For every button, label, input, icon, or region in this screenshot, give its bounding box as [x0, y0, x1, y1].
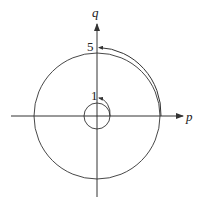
p-axis-label: p [185, 109, 193, 124]
q-axis-label: q [92, 5, 99, 20]
small-spiral-arc [99, 98, 110, 116]
large-circle-label: 5 [87, 39, 94, 54]
small-circle-label: 1 [91, 88, 98, 103]
phase-plane-diagram: q p 5 1 [0, 0, 202, 201]
